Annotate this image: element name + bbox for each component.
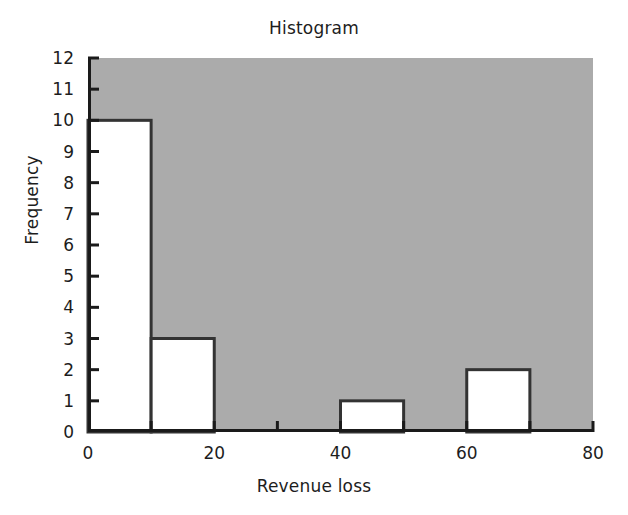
y-tick-label: 1: [63, 391, 74, 411]
y-tick-label: 9: [63, 142, 74, 162]
y-tick-label: 6: [63, 235, 74, 255]
histogram-bar: [151, 339, 214, 433]
y-axis-tick-labels: 0123456789101112: [52, 48, 74, 442]
x-tick-label: 40: [330, 443, 352, 463]
y-tick-label: 0: [63, 422, 74, 442]
y-tick-label: 7: [63, 204, 74, 224]
x-tick-label: 20: [203, 443, 225, 463]
histogram-bar: [467, 370, 530, 432]
y-tick-label: 5: [63, 266, 74, 286]
x-tick-label: 0: [83, 443, 94, 463]
y-tick-label: 8: [63, 173, 74, 193]
x-tick-label: 60: [456, 443, 478, 463]
y-tick-label: 2: [63, 360, 74, 380]
y-tick-label: 4: [63, 297, 74, 317]
x-axis-tick-labels: 020406080: [83, 443, 604, 463]
plot-area: 0123456789101112 020406080: [0, 0, 628, 515]
y-tick-label: 12: [52, 48, 74, 68]
y-tick-label: 10: [52, 110, 74, 130]
x-tick-label: 80: [582, 443, 604, 463]
y-tick-label: 11: [52, 79, 74, 99]
histogram-bar: [341, 401, 404, 432]
histogram-figure: Histogram Frequency Revenue loss 0123456…: [0, 0, 628, 515]
y-tick-label: 3: [63, 329, 74, 349]
